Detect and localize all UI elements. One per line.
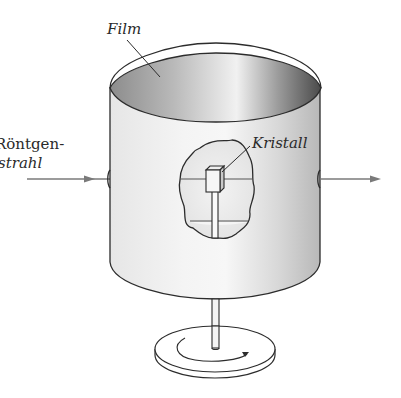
xray-label-line2: strahl <box>0 154 42 172</box>
film-label: Film <box>106 20 141 38</box>
incoming-xray-beam <box>27 176 110 183</box>
crystal-label: Kristall <box>251 134 308 152</box>
xray-label-line1: Röntgen- <box>0 135 64 153</box>
outgoing-xray-beam <box>321 176 381 183</box>
crystal-cube <box>206 170 220 192</box>
beam-arrowhead-icon <box>84 176 95 183</box>
crystal-rod-inner <box>212 191 218 238</box>
rotating-base-disc <box>155 326 275 378</box>
beam-arrowhead-icon <box>370 176 381 183</box>
film-inner-surface <box>110 53 321 122</box>
xray-diffraction-diagram: Film Kristall Röntgen- strahl <box>0 0 401 398</box>
